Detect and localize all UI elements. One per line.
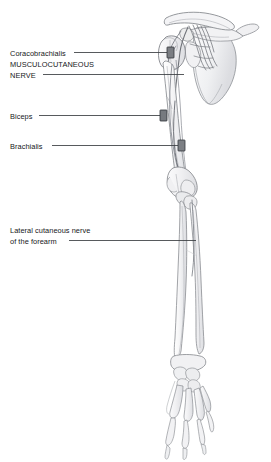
label-biceps: Biceps: [10, 111, 32, 122]
metacarpal-bones: [170, 385, 211, 421]
label-coracobrachialis: Coracobrachialis: [10, 48, 66, 59]
label-lateral-cutaneous-line1: Lateral cutaneous nerve: [10, 226, 90, 235]
label-lateral-cutaneous-line2: of the forearm: [10, 237, 57, 246]
label-musculocutaneous-nerve: MUSCULOCUTANEOUSNERVE: [10, 59, 94, 82]
forearm-group: [174, 200, 204, 358]
label-musculocutaneous-line2: NERVE: [10, 71, 36, 80]
label-brachialis: Brachialis: [10, 141, 43, 152]
hand-group: [165, 355, 214, 460]
illustration-page: Coracobrachialis MUSCULOCUTANEOUSNERVE B…: [0, 0, 271, 462]
label-lateral-cutaneous-nerve-of-forearm: Lateral cutaneous nerveof the forearm: [10, 225, 90, 248]
marker-biceps: [160, 110, 167, 121]
ulna-bone: [174, 201, 187, 358]
label-musculocutaneous-line1: MUSCULOCUTANEOUS: [10, 60, 94, 69]
marker-brachialis: [178, 140, 185, 151]
marker-coracobrachialis: [167, 47, 174, 58]
radius-bone: [190, 203, 204, 354]
